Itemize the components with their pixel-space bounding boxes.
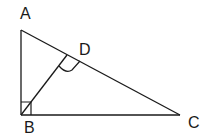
segment-ac	[21, 30, 180, 115]
label-a: A	[20, 5, 31, 22]
triangle-diagram: A B C D	[0, 0, 206, 138]
label-c: C	[188, 114, 200, 131]
label-b: B	[24, 119, 35, 136]
label-d: D	[79, 41, 91, 58]
right-angle-marker-d	[59, 61, 80, 71]
segment-bd	[21, 55, 67, 115]
